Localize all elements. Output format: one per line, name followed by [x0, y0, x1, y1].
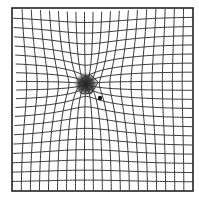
amsler-grid — [0, 0, 199, 207]
fixation-dot — [98, 96, 102, 100]
background — [0, 0, 199, 207]
scotoma-blob — [74, 72, 98, 96]
